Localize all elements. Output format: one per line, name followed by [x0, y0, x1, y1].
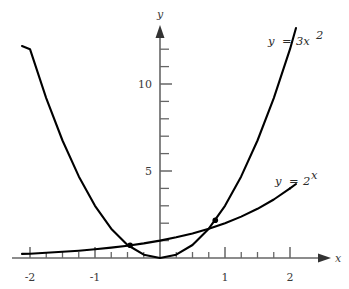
- curve1-label-equals: =: [282, 34, 292, 48]
- x-tick-label-neg1: -1: [90, 271, 101, 284]
- curve2-label-exponent: x: [311, 168, 318, 182]
- axes-group: [12, 25, 331, 263]
- y-axis-minor-ticks: [160, 49, 169, 240]
- curve1-label-exponent: 2: [315, 28, 323, 42]
- curve2-label-equals: =: [289, 174, 299, 188]
- curve2-label-base: 2: [302, 174, 310, 188]
- plot-canvas: -2 -1 1 2 5 10 x y y = 3x 2 y = 2 x: [0, 0, 349, 289]
- y-axis-arrowhead: [156, 25, 165, 38]
- x-axis-label: x: [335, 252, 342, 265]
- math-graph-figure: -2 -1 1 2 5 10 x y y = 3x 2 y = 2 x: [0, 0, 349, 289]
- x-tick-label-pos2: 2: [287, 271, 294, 284]
- x-tick-label-pos1: 1: [222, 271, 229, 284]
- curve-quadratic-3x-squared: [22, 28, 296, 258]
- curve-label-exponential: y = 2 x: [274, 168, 318, 188]
- curve1-label-lhs: y: [267, 34, 275, 48]
- y-tick-label-10: 10: [138, 78, 152, 91]
- x-tick-label-neg2: -2: [25, 271, 36, 284]
- curve1-label-coefficient: 3x: [296, 34, 310, 48]
- curve2-label-lhs: y: [274, 174, 282, 188]
- intersection-point-right: [213, 217, 219, 223]
- curve-exponential-2-to-x: [22, 188, 290, 254]
- intersection-point-left: [127, 243, 133, 249]
- y-axis-major-ticks: [160, 84, 172, 171]
- y-tick-label-5: 5: [145, 165, 152, 178]
- y-axis-label: y: [156, 8, 164, 21]
- x-axis-arrowhead: [318, 254, 331, 263]
